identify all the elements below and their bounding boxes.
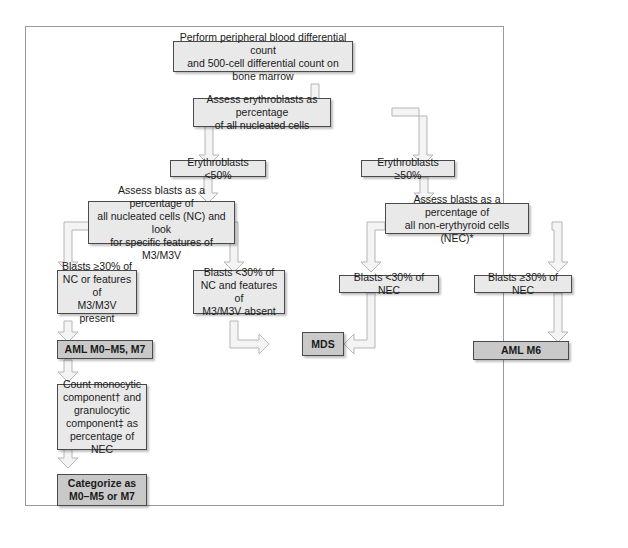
arrow-branch-right-icon <box>548 222 568 272</box>
arrow-branch-left-icon <box>361 222 385 272</box>
node-label: Count monocytic component† and granulocy… <box>62 378 142 456</box>
node-label: MDS <box>311 338 334 351</box>
node-label: Blasts <30% of NEC <box>344 271 434 297</box>
node-label: Assess blasts as a percentage of all nuc… <box>93 184 230 262</box>
node-blasts-lt30-nec: Blasts <30% of NEC <box>339 275 439 293</box>
node-label: Assess blasts as a percentage of all non… <box>390 193 524 245</box>
node-label: AML M0–M5, M7 <box>65 343 146 356</box>
node-blasts-ge30-nc: Blasts ≥30% of NC or features of M3/M3V … <box>57 270 137 314</box>
node-assess-blasts-nc: Assess blasts as a percentage of all nuc… <box>88 201 235 244</box>
node-label: Blasts ≥30% of NEC <box>479 271 567 297</box>
node-count-components: Count monocytic component† and granulocy… <box>57 384 147 450</box>
node-start: Perform peripheral blood differential co… <box>173 41 353 72</box>
arrow-elbow-left-icon <box>344 293 375 354</box>
node-assess-blasts-nec: Assess blasts as a percentage of all non… <box>385 203 529 234</box>
node-label: Blasts ≥30% of NC or features of M3/M3V … <box>62 260 132 325</box>
arrow-elbow-right-icon <box>230 321 269 354</box>
node-erythroblasts-lt50: Erythroblasts <50% <box>170 160 266 177</box>
node-categorize: Categorize as M0–M5 or M7 <box>57 474 147 506</box>
node-blasts-ge30-nec: Blasts ≥30% of NEC <box>474 275 572 293</box>
node-erythroblasts-ge50: Erythroblasts ≥50% <box>361 160 455 177</box>
node-label: Erythroblasts <50% <box>175 156 261 182</box>
arrow-down-icon <box>548 293 568 342</box>
node-label: Assess erythroblasts as percentage of al… <box>198 93 326 132</box>
node-aml-m6: AML M6 <box>473 341 569 360</box>
node-assess-erythroblasts: Assess erythroblasts as percentage of al… <box>193 98 331 127</box>
node-label: Perform peripheral blood differential co… <box>178 31 348 83</box>
node-label: Categorize as M0–M5 or M7 <box>68 477 136 503</box>
node-label: AML M6 <box>501 344 541 357</box>
node-mds: MDS <box>302 332 344 356</box>
node-label: Blasts <30% of NC and features of M3/M3V… <box>198 266 280 318</box>
node-label: Erythroblasts ≥50% <box>366 156 450 182</box>
node-aml-m0-m5-m7: AML M0–M5, M7 <box>57 340 153 359</box>
node-blasts-lt30-nc: Blasts <30% of NC and features of M3/M3V… <box>193 270 285 314</box>
